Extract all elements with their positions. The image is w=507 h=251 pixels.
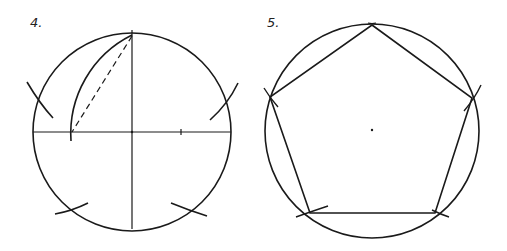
arc-mark-left: [27, 82, 53, 118]
vertex-mark-top: [368, 23, 376, 24]
figure-5: 5.: [264, 15, 481, 238]
figure-4-label: 4.: [30, 15, 42, 30]
swing-arc: [71, 35, 132, 141]
arc-mark-bottom-left: [55, 203, 88, 214]
vertex-mark-left: [264, 88, 278, 107]
dashed-chord: [72, 36, 132, 132]
inscribed-pentagon: [270, 25, 472, 213]
center-point: [131, 131, 133, 133]
figure-4: 4.: [27, 15, 238, 231]
arc-mark-right: [210, 83, 238, 120]
figure-5-label: 5.: [267, 15, 279, 30]
arc-mark-bottom-right: [171, 203, 207, 216]
center-point: [371, 129, 373, 131]
diagram-canvas: 4. 5.: [0, 0, 507, 251]
